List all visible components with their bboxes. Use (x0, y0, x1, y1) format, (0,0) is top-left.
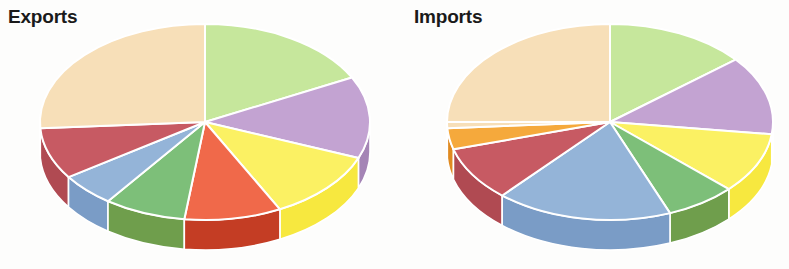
chart-title-exports: Exports (8, 6, 77, 28)
chart-title-imports: Imports (414, 6, 482, 28)
pie-chart-imports (394, 0, 788, 269)
pie-chart-figure: Exports Imports (0, 0, 789, 269)
pie-slice (40, 24, 205, 128)
chart-panel-exports: Exports (0, 0, 394, 269)
pie-slice (447, 24, 610, 122)
chart-panel-imports: Imports (394, 0, 788, 269)
pie-chart-exports (0, 0, 394, 269)
